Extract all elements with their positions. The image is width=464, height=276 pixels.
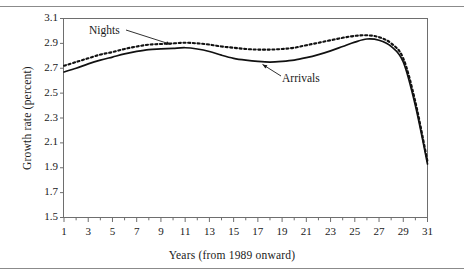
chart-figure: Growth rate (percent) Years (from 1989 o…: [0, 0, 464, 276]
y-tick-label: 1.9: [18, 160, 58, 172]
y-tick-label: 2.7: [18, 61, 58, 73]
y-tick-label: 1.7: [18, 185, 58, 197]
y-tick-label: 2.3: [18, 111, 58, 123]
y-tick-label: 1.5: [18, 210, 58, 222]
x-axis-title: Years (from 1989 onward): [0, 249, 464, 261]
series-annotation-nights: Nights: [89, 24, 120, 36]
x-tick-label: 31: [414, 225, 442, 237]
y-tick-label: 2.5: [18, 86, 58, 98]
y-tick-label: 3.1: [18, 11, 58, 23]
y-tick-label: 2.1: [18, 135, 58, 147]
y-tick-label: 2.9: [18, 36, 58, 48]
x-axis-ticks: [64, 218, 428, 223]
series-annotation-arrivals: Arrivals: [282, 72, 320, 84]
